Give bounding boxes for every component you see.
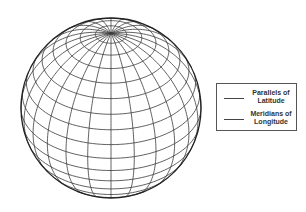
parallels-label-line1: Parallels of [246, 89, 296, 97]
meridians-line-swatch [224, 119, 244, 120]
meridians-label-line1: Meridians of [246, 110, 296, 118]
parallels-label-line2: Latitude [246, 97, 296, 105]
meridians-label-line2: Longitude [246, 118, 296, 126]
parallels-line-swatch [224, 98, 244, 99]
legend-item-meridians: Meridians of Longitude [217, 110, 296, 130]
meridians-label: Meridians of Longitude [246, 110, 296, 126]
legend-box: Parallels of Latitude Meridians of Longi… [216, 83, 297, 131]
parallels-label: Parallels of Latitude [246, 89, 296, 105]
legend-item-parallels: Parallels of Latitude [217, 89, 296, 109]
